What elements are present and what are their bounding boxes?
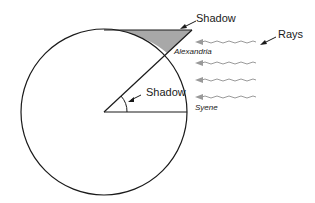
sun-ray-icon xyxy=(195,77,256,83)
sun-ray-icon xyxy=(195,39,256,45)
arrow-to-shadow-icon xyxy=(180,21,196,29)
shadow-top-label: Shadow xyxy=(196,13,236,24)
angle-arc xyxy=(121,96,127,112)
sun-ray-icon xyxy=(195,94,256,100)
eratosthenes-diagram: Shadow Rays Alexandria Shadow Syene xyxy=(0,0,315,203)
arrow-to-angle-icon xyxy=(128,95,141,102)
shadow-angle-label: Shadow xyxy=(146,87,186,98)
rays-label: Rays xyxy=(278,29,303,40)
alexandria-label: Alexandria xyxy=(174,48,212,56)
syene-label: Syene xyxy=(195,104,218,112)
sun-ray-icon xyxy=(195,60,256,66)
diagram-canvas xyxy=(0,0,315,203)
arrow-to-rays-icon xyxy=(260,37,276,45)
